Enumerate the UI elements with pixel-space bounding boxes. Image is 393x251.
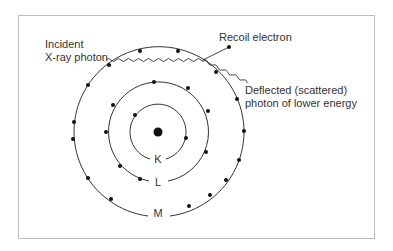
m-shell-label: M — [153, 207, 162, 219]
incident-label: Incident X-ray photon — [45, 38, 108, 64]
deflected-label-line2: photon of lower energy — [245, 97, 357, 110]
deflected-label: Deflected (scattered) photon of lower en… — [245, 84, 357, 110]
deflected-label-line1: Deflected (scattered) — [245, 84, 357, 97]
k-electrons — [133, 113, 188, 140]
recoil-electron — [227, 45, 231, 49]
nucleus — [154, 128, 163, 137]
incident-label-line1: Incident — [45, 38, 108, 51]
recoil-label: Recoil electron — [219, 31, 292, 44]
incident-photon-wave — [106, 59, 205, 62]
l-shell-label: L — [155, 176, 161, 188]
recoil-electron-path — [203, 47, 229, 60]
incident-label-line2: X-ray photon — [45, 51, 108, 64]
k-shell-label: K — [154, 153, 161, 165]
